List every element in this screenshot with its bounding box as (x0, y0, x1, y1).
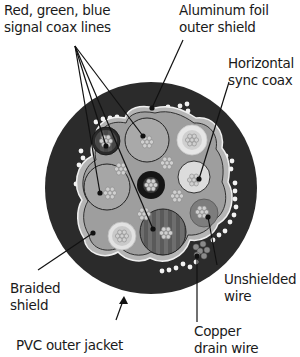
label-drain-wire: Copper drain wire (194, 323, 258, 357)
coax-light-top-right (177, 125, 207, 155)
label-foil-shield: Aluminum foil outer shield (179, 2, 269, 36)
label-hsync-coax: Horizontal sync coax (228, 55, 294, 89)
label-line: Copper (194, 323, 258, 340)
label-line: outer shield (179, 19, 269, 36)
label-line: Unshielded (224, 271, 296, 288)
label-line: Red, green, blue (4, 2, 111, 19)
label-line: Horizontal (228, 55, 294, 72)
coax-horizontal-sync (178, 161, 210, 193)
label-line: sync coax (228, 72, 294, 89)
label-unshielded-wire: Unshielded wire (224, 271, 296, 305)
label-line: signal coax lines (4, 19, 111, 36)
unshielded-wire (190, 199, 218, 227)
label-line: shield (10, 297, 60, 314)
label-braided-shield: Braided shield (10, 280, 60, 314)
label-pvc-jacket: PVC outer jacket (16, 337, 123, 354)
coax-black-center (137, 171, 165, 199)
label-line: wire (224, 288, 296, 305)
label-line: PVC outer jacket (16, 337, 123, 354)
label-rgb-coax: Red, green, blue signal coax lines (4, 2, 111, 36)
label-line: Braided (10, 280, 60, 297)
label-line: Aluminum foil (179, 2, 269, 19)
coax-light-bottom-left (108, 222, 136, 250)
arrow-head-icon (119, 296, 128, 304)
coax-green (125, 118, 169, 162)
label-line: drain wire (194, 340, 258, 357)
